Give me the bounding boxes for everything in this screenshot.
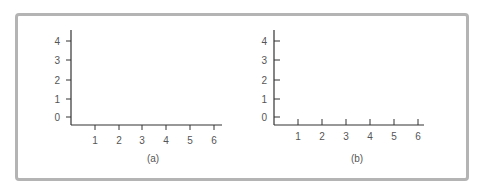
x-tick-label: 2 — [116, 135, 122, 146]
y-tick-label: 2 — [261, 75, 267, 86]
x-tick-label: 2 — [319, 131, 325, 142]
x-tick-label: 4 — [163, 135, 169, 146]
x-tick-label: 3 — [343, 131, 349, 142]
caption-b: (b) — [351, 153, 363, 164]
y-tick-label: 3 — [54, 55, 60, 66]
figure-canvas: 4 3 2 1 0 1 2 3 4 5 6 (a) 4 3 2 1 0 — [0, 0, 482, 189]
x-tick-label: 3 — [139, 135, 145, 146]
y-tick-label: 4 — [54, 36, 60, 47]
y-tick-label: 3 — [261, 55, 267, 66]
caption-a: (a) — [147, 153, 159, 164]
y-tick-label: 2 — [54, 75, 60, 86]
x-tick-label: 1 — [92, 135, 98, 146]
x-tick-label: 5 — [391, 131, 397, 142]
y-tick-label: 1 — [54, 94, 60, 105]
y-tick-label: 1 — [261, 94, 267, 105]
x-tick-label: 5 — [187, 135, 193, 146]
x-tick-label: 4 — [367, 131, 373, 142]
y-tick-label: 4 — [261, 36, 267, 47]
x-tick-label: 6 — [415, 131, 421, 142]
x-tick-label: 6 — [211, 135, 217, 146]
chart-a: 4 3 2 1 0 1 2 3 4 5 6 (a) — [54, 30, 222, 164]
y-tick-label: 0 — [261, 112, 267, 123]
chart-b: 4 3 2 1 0 1 2 3 4 5 6 (b) — [261, 30, 424, 164]
y-tick-label: 0 — [54, 112, 60, 123]
x-tick-label: 1 — [295, 131, 301, 142]
